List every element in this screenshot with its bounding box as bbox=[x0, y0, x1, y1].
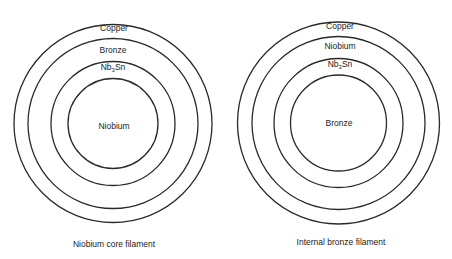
caption: Niobium core filament bbox=[73, 239, 155, 249]
layer-label-niobium: Niobium bbox=[324, 41, 355, 51]
nb3sn-main: Nb bbox=[328, 59, 339, 69]
layer-label-nb3sn: Nb3Sn bbox=[101, 62, 126, 72]
diagram-canvas bbox=[0, 0, 452, 259]
caption: Internal bronze filament bbox=[297, 237, 386, 247]
layer-label-niobium-core: Niobium bbox=[98, 121, 129, 131]
layer-label-copper: Copper bbox=[326, 21, 354, 31]
layer-label-bronze: Bronze bbox=[100, 45, 127, 55]
nb3sn-tail: Sn bbox=[115, 62, 125, 72]
nb3sn-tail: Sn bbox=[342, 59, 352, 69]
layer-label-copper: Copper bbox=[100, 23, 128, 33]
layer-label-bronze-core: Bronze bbox=[326, 118, 353, 128]
layer-label-nb3sn: Nb3Sn bbox=[328, 59, 353, 69]
nb3sn-main: Nb bbox=[101, 62, 112, 72]
